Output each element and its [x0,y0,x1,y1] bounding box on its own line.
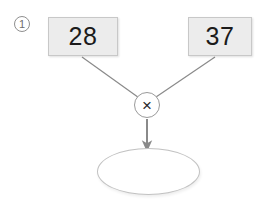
operator-symbol: × [142,97,152,114]
operand-left-value: 28 [69,24,98,49]
result-answer-field[interactable] [97,148,200,195]
multiply-icon[interactable]: × [134,92,160,118]
connector-left-operand-to-operator [82,57,139,98]
operand-right-value: 37 [206,24,235,49]
operand-box-left[interactable]: 28 [48,17,118,56]
connector-right-operand-to-operator [156,57,215,97]
step-number-badge: 1 [14,16,30,32]
operand-box-right[interactable]: 37 [188,17,252,56]
step-number-label: 1 [19,19,25,30]
diagram-canvas: 1 28 37 × [0,0,261,203]
